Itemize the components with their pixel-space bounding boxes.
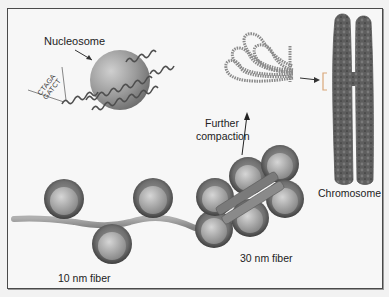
chromosome-illustration <box>333 14 374 185</box>
fiber-30nm-illustration <box>195 145 304 248</box>
nucleosome-bead <box>92 224 132 264</box>
histone-core <box>90 50 150 110</box>
looped-chromatin <box>226 34 293 82</box>
sequence-callout-line <box>62 67 66 100</box>
nucleosome-bead <box>133 178 173 218</box>
nucleosome-bead <box>44 179 84 219</box>
chromosome-region-bracket <box>323 73 327 90</box>
label-compaction: compaction <box>196 130 248 143</box>
label-chromosome: Chromosome <box>318 188 381 199</box>
label-further-compaction: Further compaction <box>196 117 248 143</box>
label-further: Further <box>196 117 248 130</box>
label-nucleosome: Nucleosome <box>44 36 105 47</box>
label-30nm-fiber: 30 nm fiber <box>240 253 293 264</box>
fiber-10nm-illustration <box>14 178 195 264</box>
label-10nm-fiber: 10 nm fiber <box>58 273 111 284</box>
